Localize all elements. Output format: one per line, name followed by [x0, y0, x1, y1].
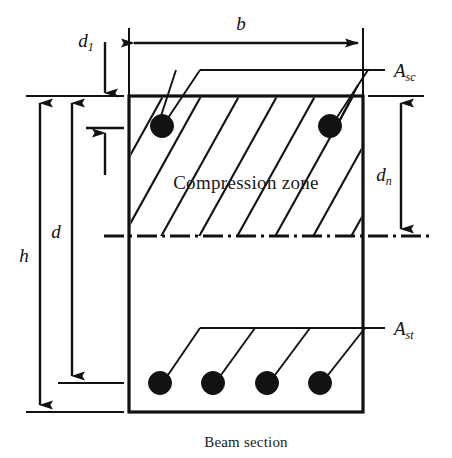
- cover-label: d1: [78, 30, 94, 54]
- asc-leader-bar2b: [340, 85, 358, 120]
- beam-section-figure: b d1 h d: [0, 0, 452, 458]
- neutral-axis-depth-group: dn: [368, 96, 424, 229]
- figure-caption: Beam section: [204, 434, 288, 450]
- bottom-rebar-4: [309, 372, 332, 395]
- reinforcement-bars: [149, 115, 342, 395]
- compression-steel-leader-group: [160, 70, 385, 128]
- compression-zone-label: Compression zone: [173, 172, 319, 193]
- top-rebar-2: [319, 115, 342, 138]
- width-dimension-group: b: [129, 13, 363, 96]
- ast-leader-bar3: [275, 328, 310, 375]
- effective-depth-label: d: [51, 221, 61, 242]
- ast-leader-bar1: [168, 328, 200, 375]
- tension-steel-label: Ast: [392, 318, 414, 342]
- bottom-rebar-2: [202, 372, 225, 395]
- cover-dimension-group: d1: [78, 30, 124, 175]
- bottom-rebar-1: [149, 372, 172, 395]
- overall-depth-label: h: [19, 245, 29, 266]
- top-rebar-1: [151, 115, 174, 138]
- bottom-rebar-3: [256, 372, 279, 395]
- compression-steel-label: Asc: [392, 60, 416, 84]
- width-label: b: [236, 13, 246, 34]
- ast-leader-bar2: [221, 328, 255, 375]
- tension-steel-leader-group: [168, 328, 385, 375]
- beam-section-diagram: b d1 h d: [0, 0, 452, 458]
- na-depth-label: dn: [376, 164, 392, 188]
- ast-leader-bar4: [328, 328, 365, 375]
- depth-dimension-group: h d: [19, 96, 124, 412]
